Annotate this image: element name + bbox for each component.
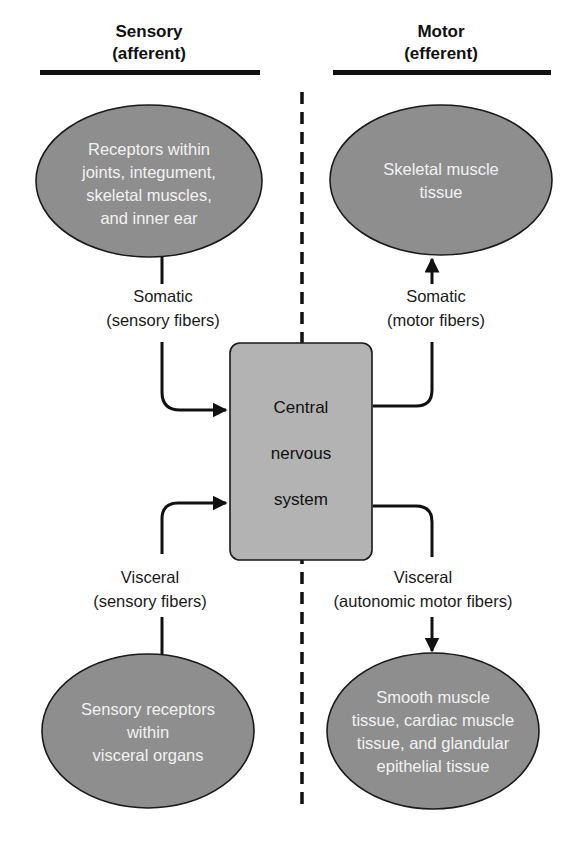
svg-text:Sensory receptors: Sensory receptors: [81, 700, 215, 718]
svg-text:Skeletal muscle: Skeletal muscle: [383, 160, 499, 178]
oval-skeletal-muscle: Skeletal muscle tissue: [330, 105, 552, 255]
svg-text:(motor fibers): (motor fibers): [387, 311, 485, 329]
motor-header-rule: [333, 70, 551, 75]
sensory-header-rule: [40, 70, 260, 75]
svg-text:(sensory fibers): (sensory fibers): [106, 311, 220, 329]
motor-header-title: Motor: [417, 22, 465, 41]
visceral-sensory-pathway: Visceral (sensory fibers): [93, 503, 226, 654]
svg-text:epithelial tissue: epithelial tissue: [377, 757, 490, 775]
svg-text:within: within: [126, 723, 169, 741]
svg-text:nervous: nervous: [271, 444, 331, 463]
somatic-sensory-pathway: Somatic (sensory fibers): [106, 257, 226, 410]
motor-header-subtitle: (efferent): [404, 44, 478, 63]
motor-header: Motor (efferent): [333, 22, 551, 75]
oval-visceral-effectors: Smooth muscle tissue, cardiac muscle tis…: [327, 653, 539, 809]
sensory-header-title: Sensory: [115, 22, 183, 41]
svg-text:(sensory fibers): (sensory fibers): [93, 592, 207, 610]
sensory-header-subtitle: (afferent): [112, 44, 186, 63]
svg-text:joints, integument,: joints, integument,: [81, 163, 216, 181]
cns-box: Central nervous system: [230, 343, 372, 560]
svg-text:and inner ear: and inner ear: [100, 209, 198, 227]
svg-text:Smooth muscle: Smooth muscle: [376, 688, 490, 706]
somatic-sensory-label: Somatic: [133, 287, 193, 305]
svg-text:skeletal muscles,: skeletal muscles,: [86, 186, 212, 204]
svg-text:tissue, cardiac muscle: tissue, cardiac muscle: [352, 711, 514, 729]
svg-text:system: system: [274, 490, 328, 509]
visceral-motor-label: Visceral: [394, 568, 452, 586]
svg-text:visceral organs: visceral organs: [93, 746, 204, 764]
svg-text:Central: Central: [274, 398, 329, 417]
somatic-motor-label: Somatic: [406, 287, 466, 305]
somatic-motor-pathway: Somatic (motor fibers): [373, 259, 485, 406]
oval-visceral-receptors: Sensory receptors within visceral organs: [42, 654, 254, 808]
svg-text:(autonomic motor fibers): (autonomic motor fibers): [334, 592, 513, 610]
svg-text:Receptors within: Receptors within: [88, 140, 210, 158]
oval-somatic-receptors: Receptors within joints, integument, ske…: [36, 105, 262, 257]
nervous-system-diagram: Sensory (afferent) Motor (efferent) Rece…: [0, 0, 582, 855]
sensory-header: Sensory (afferent): [40, 22, 260, 75]
svg-text:tissue, and glandular: tissue, and glandular: [357, 734, 510, 752]
svg-text:tissue: tissue: [419, 183, 462, 201]
visceral-sensory-label: Visceral: [121, 568, 179, 586]
